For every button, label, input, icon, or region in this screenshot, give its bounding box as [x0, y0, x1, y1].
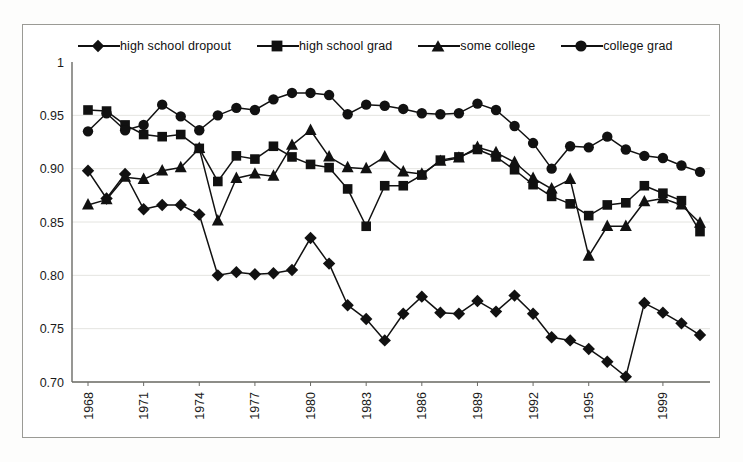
data-point-square — [157, 132, 167, 142]
data-point-circle — [454, 108, 464, 118]
data-point-square — [83, 105, 93, 115]
data-point-diamond — [471, 295, 483, 307]
x-axis-tick-label: 1980 — [304, 392, 318, 420]
x-axis-tick-label: 1983 — [360, 392, 374, 420]
data-point-circle — [435, 109, 445, 119]
data-point-square — [139, 130, 149, 140]
data-point-square — [250, 154, 260, 164]
data-point-diamond — [82, 165, 94, 177]
data-point-circle — [398, 104, 408, 114]
chart-figure: high school dropout high school grad som… — [0, 0, 743, 462]
plot-area: 10.950.900.850.800.750.70196819711974197… — [22, 24, 720, 438]
data-point-diamond — [583, 343, 595, 355]
data-point-square — [343, 184, 353, 194]
data-point-diamond — [137, 203, 149, 215]
data-point-circle — [101, 108, 111, 118]
data-point-square — [306, 160, 316, 170]
data-point-square — [213, 177, 223, 187]
data-point-square — [176, 130, 186, 140]
data-point-diamond — [267, 267, 279, 279]
x-axis-tick-label: 1992 — [527, 392, 541, 420]
data-point-circle — [621, 144, 631, 154]
data-point-diamond — [304, 232, 316, 244]
y-axis-tick-label: 0.85 — [40, 216, 64, 230]
data-point-circle — [305, 88, 315, 98]
data-point-diamond — [694, 329, 706, 341]
data-point-diamond — [249, 268, 261, 280]
data-point-circle — [213, 110, 223, 120]
data-point-circle — [509, 121, 519, 131]
data-point-square — [565, 199, 575, 209]
data-point-square — [640, 181, 650, 191]
data-point-circle — [250, 105, 260, 115]
x-axis-tick-label: 1999 — [656, 392, 670, 420]
data-point-circle — [472, 98, 482, 108]
data-point-circle — [565, 141, 575, 151]
x-axis-tick-label: 1968 — [82, 392, 96, 420]
data-point-circle — [639, 151, 649, 161]
data-point-diamond — [453, 308, 465, 320]
data-point-square — [287, 152, 297, 162]
data-point-triangle — [212, 214, 224, 225]
data-point-circle — [157, 99, 167, 109]
y-axis-tick-label: 1 — [57, 56, 64, 70]
data-point-circle — [417, 108, 427, 118]
data-point-circle — [231, 103, 241, 113]
data-point-circle — [268, 94, 278, 104]
data-point-diamond — [286, 264, 298, 276]
data-point-square — [380, 181, 390, 191]
data-point-circle — [528, 138, 538, 148]
data-point-square — [584, 211, 594, 221]
y-axis-tick-label: 0.80 — [40, 269, 64, 283]
x-axis-tick-label: 1986 — [415, 392, 429, 420]
x-axis-tick-label: 1989 — [471, 392, 485, 420]
data-point-diamond — [230, 266, 242, 278]
data-point-circle — [324, 90, 334, 100]
data-point-diamond — [564, 334, 576, 346]
data-point-circle — [546, 163, 556, 173]
data-point-circle — [676, 160, 686, 170]
data-point-circle — [120, 125, 130, 135]
y-axis-tick-label: 0.75 — [40, 322, 64, 336]
data-point-triangle — [342, 161, 354, 172]
data-point-diamond — [657, 306, 669, 318]
data-point-diamond — [193, 208, 205, 220]
data-point-square — [695, 227, 705, 237]
data-point-square — [398, 181, 408, 191]
data-point-triangle — [601, 219, 613, 230]
data-point-circle — [361, 99, 371, 109]
data-point-circle — [380, 101, 390, 111]
series-some-college — [82, 123, 706, 260]
data-point-circle — [83, 126, 93, 136]
data-point-diamond — [675, 317, 687, 329]
data-point-triangle — [583, 249, 595, 260]
x-axis-tick-label: 1995 — [582, 392, 596, 420]
data-point-square — [621, 198, 631, 208]
data-point-diamond — [175, 199, 187, 211]
data-point-diamond — [323, 257, 335, 269]
data-point-square — [602, 200, 612, 210]
data-point-square — [269, 141, 279, 151]
data-point-circle — [194, 125, 204, 135]
data-point-triangle — [360, 162, 372, 173]
data-point-circle — [584, 142, 594, 152]
data-point-square — [324, 163, 334, 173]
data-point-circle — [602, 131, 612, 141]
data-point-square — [232, 151, 242, 161]
data-point-triangle — [397, 165, 409, 176]
series-line — [88, 130, 700, 256]
series-high-school-dropout — [82, 165, 706, 383]
data-point-triangle — [286, 138, 298, 149]
data-point-diamond — [212, 269, 224, 281]
data-point-circle — [287, 88, 297, 98]
x-axis-tick-label: 1971 — [137, 392, 151, 420]
data-point-triangle — [509, 155, 521, 166]
data-point-diamond — [341, 299, 353, 311]
data-point-square — [361, 221, 371, 231]
x-axis-tick-label: 1974 — [193, 392, 207, 420]
y-axis-tick-label: 0.90 — [40, 162, 64, 176]
data-point-circle — [176, 111, 186, 121]
x-axis-tick-label: 1977 — [248, 392, 262, 420]
data-point-triangle — [527, 171, 539, 182]
data-point-circle — [491, 105, 501, 115]
